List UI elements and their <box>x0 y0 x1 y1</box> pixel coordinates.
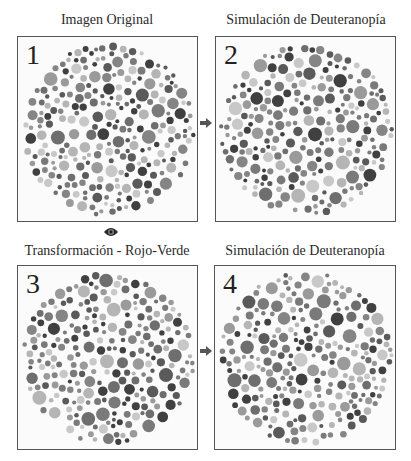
eye-icon <box>103 226 119 238</box>
panel-1-title: Imagen Original <box>17 12 197 28</box>
panel-4-title: Simulación de Deuteranopía <box>214 243 396 259</box>
arrow-right-icon <box>200 118 212 128</box>
panel-number: 1 <box>26 41 40 69</box>
arrow-right-icon <box>200 346 212 356</box>
panel-1-original-plate: 1 <box>17 36 198 222</box>
panel-4-deuteranopia-simulation: 4 <box>214 265 396 450</box>
ishihara-plate-image <box>216 37 396 222</box>
ishihara-plate-image <box>215 266 396 450</box>
panel-2-title: Simulación de Deuteranopía <box>215 12 397 28</box>
panel-2-deuteranopia-simulation: 2 <box>215 36 396 222</box>
ishihara-plate-image <box>18 266 198 450</box>
panel-3-title: Transformación - Rojo-Verde <box>17 243 197 259</box>
panel-number: 4 <box>223 270 237 298</box>
panel-number: 3 <box>26 270 40 298</box>
panel-number: 2 <box>224 41 238 69</box>
panel-3-red-green-transformation: 3 <box>17 265 198 450</box>
ishihara-plate-image <box>18 37 198 222</box>
